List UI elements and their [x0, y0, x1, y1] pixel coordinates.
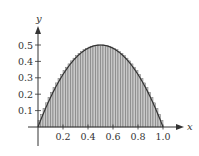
x-tick-label: 0.8 — [130, 131, 145, 142]
riemann-rectangle — [141, 79, 144, 127]
riemann-rectangle — [61, 75, 64, 127]
riemann-rectangle — [68, 64, 71, 127]
riemann-rectangle — [101, 45, 104, 127]
riemann-rectangle — [73, 58, 76, 127]
riemann-rectangle — [133, 67, 136, 127]
riemann-rectangle — [116, 50, 119, 127]
riemann-rectangle — [78, 53, 81, 127]
riemann-rectangle — [98, 45, 101, 127]
y-tick-label: 0.4 — [18, 56, 33, 67]
riemann-rectangle — [108, 46, 111, 127]
riemann-rectangle — [66, 67, 69, 127]
riemann-rectangle — [93, 46, 96, 127]
riemann-rectangle — [56, 83, 59, 127]
riemann-rectangle — [131, 64, 134, 127]
riemann-rectangle — [63, 71, 66, 127]
y-tick-label: 0.2 — [18, 89, 33, 100]
y-tick-label: 0.1 — [18, 105, 33, 116]
riemann-rectangle — [81, 51, 84, 127]
riemann-sum-chart: x y 0.20.40.60.81.0 0.10.20.30.40.5 — [0, 0, 199, 156]
riemann-rectangle — [86, 48, 89, 127]
riemann-rectangle — [126, 58, 129, 127]
riemann-rectangle — [91, 46, 94, 127]
riemann-rectangle — [76, 56, 79, 127]
riemann-rectangle — [136, 71, 139, 127]
riemann-rectangle — [71, 61, 74, 127]
riemann-rectangle — [118, 51, 121, 127]
y-tick-label: 0.3 — [18, 72, 33, 83]
riemann-rectangle — [111, 47, 114, 127]
riemann-rectangle — [58, 79, 61, 127]
x-axis-arrow-icon — [176, 124, 184, 130]
y-axis-arrow-icon — [35, 26, 41, 34]
x-axis-label: x — [187, 121, 193, 132]
riemann-rectangle — [146, 88, 149, 127]
riemann-rectangle — [103, 45, 106, 127]
y-axis-label: y — [35, 13, 42, 24]
riemann-rectangle — [121, 53, 124, 127]
riemann-rectangle — [83, 50, 86, 127]
x-tick-label: 0.4 — [80, 131, 95, 142]
riemann-rectangle — [113, 48, 116, 127]
riemann-rectangle — [123, 56, 126, 127]
riemann-rectangle — [88, 47, 91, 127]
riemann-rectangle — [138, 75, 141, 127]
riemann-rectangle — [106, 46, 109, 127]
riemann-rectangle — [128, 61, 131, 127]
x-tick-label: 0.2 — [55, 131, 70, 142]
x-tick-label: 0.6 — [105, 131, 120, 142]
riemann-rectangle — [53, 88, 56, 127]
riemann-rectangle — [96, 45, 99, 127]
riemann-rectangle — [143, 83, 146, 127]
x-tick-label: 1.0 — [155, 131, 170, 142]
y-tick-label: 0.5 — [18, 40, 33, 51]
